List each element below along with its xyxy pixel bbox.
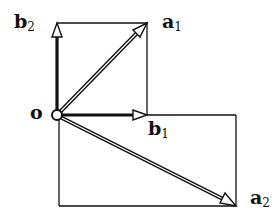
- vector-b1: [60, 110, 147, 120]
- label-b1: b1: [148, 119, 169, 140]
- vector-a1: [59, 23, 147, 113]
- arrowhead-b2-icon: [52, 23, 62, 37]
- label-a1: a1: [162, 12, 182, 33]
- vector-b2: [52, 23, 62, 112]
- origin-point-icon: [52, 110, 62, 120]
- label-b2: b2: [14, 12, 35, 33]
- label-origin: o: [30, 103, 43, 122]
- arrowhead-a2-icon: [220, 193, 236, 206]
- vector-diagram: b2 a1 b1 a2 o: [0, 0, 272, 219]
- label-a2: a2: [250, 188, 270, 209]
- arrowhead-b1-icon: [133, 110, 147, 120]
